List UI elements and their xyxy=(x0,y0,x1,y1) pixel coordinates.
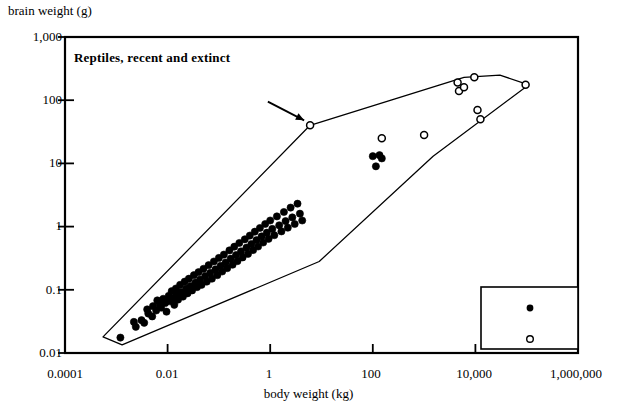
data-point-recent-reptiles xyxy=(117,334,124,341)
data-point-dinosaurs xyxy=(461,84,468,91)
data-point-recent-reptiles xyxy=(280,208,287,215)
data-point-recent-reptiles xyxy=(271,232,278,239)
legend-box xyxy=(481,287,578,349)
data-point-recent-reptiles xyxy=(267,217,274,224)
data-point-dinosaurs xyxy=(522,81,529,88)
data-point-dinosaurs xyxy=(471,74,478,81)
data-point-recent-reptiles xyxy=(289,214,296,221)
data-point-recent-reptiles xyxy=(141,319,148,326)
data-point-recent-reptiles xyxy=(282,218,289,225)
annotations xyxy=(268,102,304,121)
data-points xyxy=(117,74,529,341)
data-point-dinosaurs xyxy=(307,122,314,129)
data-point-recent-reptiles xyxy=(369,153,376,160)
data-point-dinosaurs xyxy=(454,79,461,86)
data-point-recent-reptiles xyxy=(278,228,285,235)
legend-marker-open-circle-icon xyxy=(527,336,534,343)
data-point-recent-reptiles xyxy=(294,200,301,207)
figure-root: brain weight (g) Reptiles, recent and ex… xyxy=(0,0,617,415)
data-point-recent-reptiles xyxy=(378,155,385,162)
data-point-recent-reptiles xyxy=(296,210,303,217)
plot-canvas xyxy=(0,0,617,415)
data-point-dinosaurs xyxy=(477,116,484,123)
data-point-recent-reptiles xyxy=(132,323,139,330)
data-point-recent-reptiles xyxy=(163,308,170,315)
data-point-recent-reptiles xyxy=(273,213,280,220)
data-point-recent-reptiles xyxy=(372,163,379,170)
data-point-recent-reptiles xyxy=(284,224,291,231)
data-point-recent-reptiles xyxy=(287,204,294,211)
data-point-recent-reptiles xyxy=(299,217,306,224)
data-point-dinosaurs xyxy=(421,132,428,139)
data-point-dinosaurs xyxy=(378,135,385,142)
data-point-recent-reptiles xyxy=(291,220,298,227)
legend-marker-filled-circle-icon xyxy=(527,305,534,312)
data-point-dinosaurs xyxy=(474,107,481,114)
